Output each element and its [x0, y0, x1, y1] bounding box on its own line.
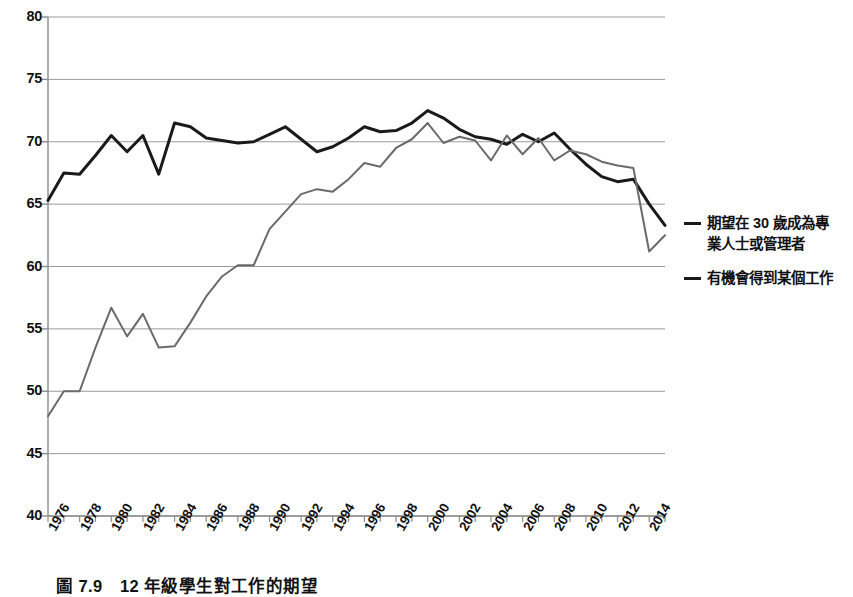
y-axis-tick-label: 55 — [8, 321, 42, 336]
legend-item-1: 期望在 30 歲成為專業人士或管理者 — [684, 213, 852, 255]
chart-legend: 期望在 30 歲成為專業人士或管理者 有機會得到某個工作 — [684, 213, 852, 302]
figure-caption: 圖 7.9 12 年級學生對工作的期望 — [56, 573, 318, 597]
legend-line-icon-1 — [684, 222, 701, 225]
y-axis-tick-label: 45 — [8, 446, 42, 461]
legend-label-2: 有機會得到某個工作 — [707, 268, 833, 289]
series-line-2 — [48, 123, 665, 416]
y-axis-tick-label: 50 — [8, 383, 42, 398]
y-axis-tick-label: 70 — [8, 134, 42, 149]
legend-item-2: 有機會得到某個工作 — [684, 268, 852, 289]
x-axis-ticks — [48, 516, 665, 522]
y-axis-tick-label: 60 — [8, 259, 42, 274]
gridlines — [42, 17, 665, 516]
y-axis-labels: 807570656055504540 — [0, 0, 42, 540]
data-series-group — [48, 111, 665, 417]
y-axis-tick-label: 75 — [8, 71, 42, 86]
series-line-1 — [48, 111, 665, 226]
y-axis-tick-label: 65 — [8, 196, 42, 211]
legend-line-icon-2 — [684, 277, 701, 280]
legend-label-1: 期望在 30 歲成為專業人士或管理者 — [707, 213, 837, 255]
y-axis-tick-label: 40 — [8, 508, 42, 523]
y-axis-tick-label: 80 — [8, 9, 42, 24]
